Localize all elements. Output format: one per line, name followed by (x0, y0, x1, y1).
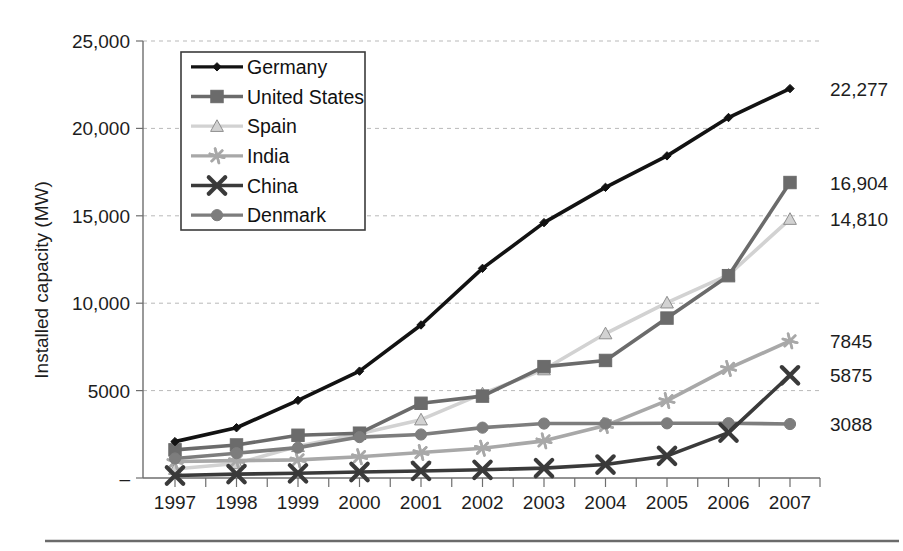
data-point-marker (784, 176, 796, 188)
series-end-label: 16,904 (830, 173, 889, 194)
data-point-marker (476, 390, 488, 402)
data-point-marker (538, 360, 550, 372)
y-axis-title: Installed capacity (MW) (31, 181, 52, 378)
chart-container: 25,00020,00015,00010,0005000–19971998199… (0, 0, 903, 551)
legend-label: Spain (247, 115, 297, 137)
y-axis-tick-label: 10,000 (72, 293, 130, 314)
data-point-marker (211, 90, 223, 102)
legend-label: United States (247, 86, 364, 108)
data-point-marker (722, 269, 734, 281)
x-axis-tick-labels: 1997199819992000200120022003200420052006… (154, 492, 811, 513)
x-axis-tick-label: 1999 (277, 492, 319, 513)
x-axis-tick-label: 2002 (461, 492, 503, 513)
data-point-marker (784, 418, 795, 429)
x-axis-tick-label: 1998 (215, 492, 257, 513)
x-axis-tick-label: 2003 (523, 492, 565, 513)
series-spain (169, 213, 797, 475)
data-point-marker (538, 418, 549, 429)
y-axis-tick-label: 20,000 (72, 118, 130, 139)
x-axis-tick-label: 1997 (154, 492, 196, 513)
x-axis-tick-label: 2005 (646, 492, 688, 513)
legend-label: Denmark (247, 204, 326, 226)
data-point-marker (169, 453, 180, 464)
legend-label: China (247, 175, 298, 197)
series-end-label: 22,277 (830, 79, 888, 100)
data-point-marker (354, 431, 365, 442)
data-point-marker (661, 418, 672, 429)
legend-label: India (247, 145, 289, 167)
data-point-marker (292, 429, 304, 441)
data-point-marker (415, 397, 427, 409)
data-point-marker (415, 429, 426, 440)
x-axis-tick-label: 2000 (338, 492, 380, 513)
series-end-label: 3088 (830, 414, 872, 435)
data-point-marker (661, 312, 673, 324)
data-point-marker (231, 448, 242, 459)
x-ticks (175, 478, 820, 487)
y-axis-tick-label: 5000 (88, 381, 130, 402)
line-chart: 25,00020,00015,00010,0005000–19971998199… (0, 0, 903, 551)
legend-label: Germany (247, 56, 327, 78)
series-end-label: 14,810 (830, 209, 888, 230)
series-end-label: 5875 (830, 365, 872, 386)
x-axis-tick-label: 2007 (769, 492, 811, 513)
end-labels: 22,27716,90414,810784558753088 (830, 79, 889, 435)
data-point-marker (600, 418, 611, 429)
data-point-marker (477, 422, 488, 433)
y-axis-tick-label: – (119, 468, 130, 489)
x-axis-tick-label: 2004 (584, 492, 627, 513)
x-axis-tick-label: 2006 (707, 492, 749, 513)
data-point-marker (211, 210, 222, 221)
data-point-marker (784, 213, 797, 225)
y-axis-tick-label: 15,000 (72, 206, 130, 227)
x-axis-tick-label: 2001 (400, 492, 442, 513)
data-point-marker (599, 354, 611, 366)
data-point-marker (292, 442, 303, 453)
y-axis-tick-label: 25,000 (72, 31, 130, 52)
series-end-label: 7845 (830, 331, 872, 352)
legend: GermanyUnited StatesSpainIndiaChinaDenma… (181, 52, 365, 230)
